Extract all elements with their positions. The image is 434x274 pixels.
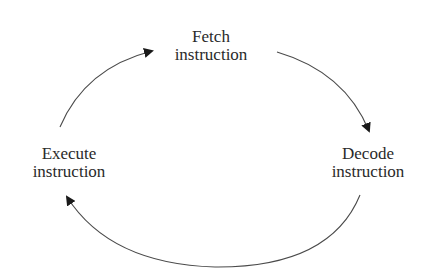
arrow-fetch-to-decode — [277, 52, 369, 131]
node-fetch-line-2: instruction — [175, 46, 248, 64]
node-decode-line-1: Decode — [332, 145, 405, 163]
arrow-decode-to-execute — [67, 195, 360, 267]
instruction-cycle-diagram: Fetch instruction Decode instruction Exe… — [0, 0, 434, 274]
node-execute-line-2: instruction — [33, 163, 106, 181]
arrow-execute-to-fetch — [60, 51, 152, 127]
node-decode-line-2: instruction — [332, 163, 405, 181]
node-execute-instruction: Execute instruction — [33, 145, 106, 181]
node-fetch-line-1: Fetch — [175, 28, 248, 46]
node-decode-instruction: Decode instruction — [332, 145, 405, 181]
node-fetch-instruction: Fetch instruction — [175, 28, 248, 64]
node-execute-line-1: Execute — [33, 145, 106, 163]
